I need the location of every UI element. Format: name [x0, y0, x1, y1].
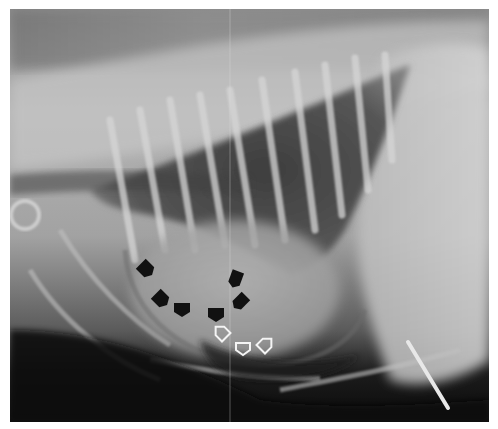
- xray-illustration: [10, 9, 489, 422]
- radiograph-image: [10, 9, 489, 422]
